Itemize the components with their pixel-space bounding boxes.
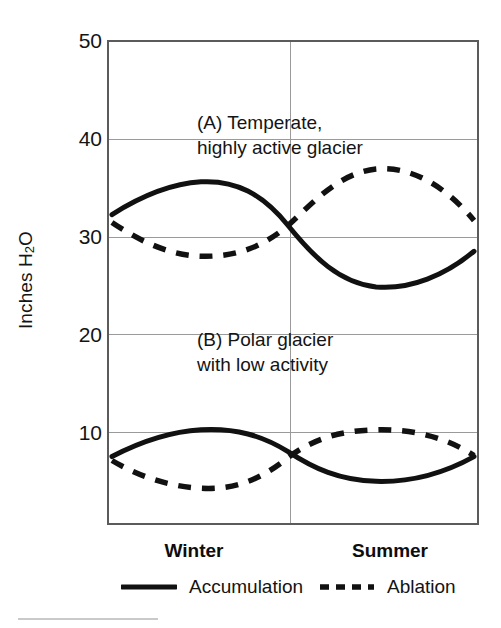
legend-item-accumulation: Accumulation	[121, 575, 303, 599]
y-tick-20: 20	[56, 324, 102, 345]
y-tick-30: 30	[56, 226, 102, 247]
panel-a-ablation-curve	[112, 169, 474, 257]
legend: Accumulation Ablation	[107, 575, 487, 603]
y-axis-title: Inches H2O	[6, 150, 46, 410]
y-tick-50: 50	[56, 30, 102, 51]
season-label-summer: Summer	[315, 540, 465, 562]
y-axis-title-subscript: 2	[22, 246, 37, 253]
y-tick-40: 40	[56, 128, 102, 149]
footer-divider	[18, 618, 158, 620]
legend-label-ablation: Ablation	[387, 576, 456, 598]
y-axis-title-tail: O	[15, 231, 36, 246]
annotation-panel-b: (B) Polar glacier with low activity	[197, 327, 333, 377]
y-tick-10: 10	[56, 422, 102, 443]
annotation-panel-a: (A) Temperate, highly active glacier	[197, 110, 363, 160]
season-label-winter: Winter	[119, 540, 269, 562]
legend-dashed-line-icon	[319, 579, 375, 595]
glacier-mass-balance-figure: Inches H2O 50 40 30 20 10 (A) Temperate,	[0, 0, 501, 628]
legend-solid-line-icon	[121, 579, 177, 595]
panel-a-accumulation-curve	[112, 182, 474, 288]
season-labels: Winter Summer	[107, 540, 479, 566]
plot-area: (A) Temperate, highly active glacier (B)…	[107, 40, 479, 525]
y-axis-tick-labels: 50 40 30 20 10	[52, 0, 102, 628]
y-axis-title-main: Inches H	[15, 253, 36, 329]
legend-item-ablation: Ablation	[319, 575, 456, 599]
legend-label-accumulation: Accumulation	[189, 576, 303, 598]
y-axis-title-text: Inches H2O	[15, 231, 38, 329]
